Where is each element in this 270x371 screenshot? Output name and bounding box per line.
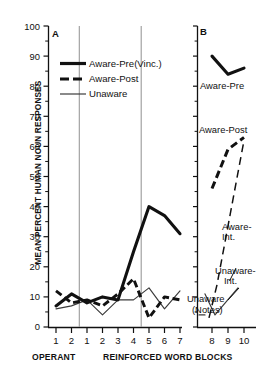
y-tick-40: 40 bbox=[14, 201, 40, 212]
series-aware-pre-line bbox=[56, 207, 180, 306]
legend-glyphs bbox=[60, 64, 86, 95]
annotation-unaware-notes-line1: Unaware bbox=[187, 294, 225, 304]
x-tick-b-8: 8 bbox=[204, 335, 220, 346]
legend-label-unaware: Unaware bbox=[89, 88, 127, 99]
panel-b-x-ticks bbox=[212, 328, 244, 334]
legend-label-aware-post: Aware-Post bbox=[89, 73, 138, 84]
x-tick-reinforced-1: 1 bbox=[79, 335, 95, 346]
series-b-aware-pre-line bbox=[212, 56, 244, 74]
figure-root: MEAN PERCENT HUMAN NOUN RESPONSES 100 90… bbox=[0, 0, 270, 371]
y-tick-50: 50 bbox=[14, 171, 40, 182]
x-tick-b-9: 9 bbox=[220, 335, 236, 346]
x-tick-reinforced-5: 5 bbox=[141, 335, 157, 346]
y-tick-70: 70 bbox=[14, 111, 40, 122]
annotation-aware-post: Aware-Post bbox=[199, 125, 247, 135]
x-tick-reinforced-6: 6 bbox=[157, 335, 173, 346]
y-tick-10: 10 bbox=[14, 291, 40, 302]
x-tick-reinforced-2: 2 bbox=[95, 335, 111, 346]
annotation-unaware-int-line2: Int. bbox=[224, 276, 237, 286]
panel-a-label: A bbox=[52, 28, 59, 39]
panel-a-x-ticks bbox=[56, 328, 180, 334]
annotation-aware-pre: Aware-Pre bbox=[200, 81, 244, 91]
x-tick-reinforced-7: 7 bbox=[172, 335, 188, 346]
x-tick-reinforced-4: 4 bbox=[126, 335, 142, 346]
x-tick-reinforced-3: 3 bbox=[110, 335, 126, 346]
panel-a-series bbox=[56, 207, 180, 318]
y-tick-60: 60 bbox=[14, 141, 40, 152]
leader-unaware-notes bbox=[228, 288, 239, 300]
annotation-unaware-notes-line2: (Notes) bbox=[192, 305, 223, 315]
panel-b-label: B bbox=[200, 26, 207, 37]
x-tick-operant-2: 2 bbox=[64, 335, 80, 346]
panel-b-series bbox=[199, 56, 244, 318]
y-tick-0: 0 bbox=[14, 321, 40, 332]
legend-label-aware-pre: Aware-Pre(Vinc.) bbox=[89, 58, 162, 69]
y-tick-20: 20 bbox=[14, 261, 40, 272]
x-tick-operant-1: 1 bbox=[48, 335, 64, 346]
y-tick-30: 30 bbox=[14, 231, 40, 242]
y-tick-90: 90 bbox=[14, 51, 40, 62]
x-axis-title-operant: OPERANT bbox=[32, 352, 75, 362]
x-tick-b-10: 10 bbox=[236, 335, 252, 346]
y-tick-80: 80 bbox=[14, 81, 40, 92]
x-axis-title-reinforced: REINFORCED WORD BLOCKS bbox=[103, 352, 232, 362]
y-tick-100: 100 bbox=[14, 21, 40, 32]
annotation-aware-int-line2: Int. bbox=[222, 232, 235, 242]
